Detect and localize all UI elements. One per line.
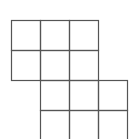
- grid-cell: [41, 111, 70, 140]
- grid-cell: [70, 81, 99, 111]
- grid-cell: [12, 21, 41, 51]
- grid-cell: [70, 51, 99, 81]
- grid-cell: [70, 21, 99, 51]
- grid-cell: [99, 81, 128, 111]
- grid-cell: [99, 111, 128, 140]
- bottom-block: [41, 81, 128, 140]
- grid-diagram: [0, 0, 134, 139]
- top-block: [12, 21, 99, 81]
- grid-cell: [41, 51, 70, 81]
- grid-cell: [12, 51, 41, 81]
- grid-cell: [41, 21, 70, 51]
- grid-cell: [70, 111, 99, 140]
- grid-cell: [41, 81, 70, 111]
